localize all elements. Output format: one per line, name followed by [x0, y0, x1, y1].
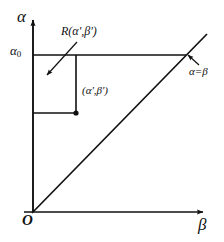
diagram-svg: [0, 0, 224, 242]
alpha-zero-tick-label: α0: [10, 44, 21, 57]
alpha-axis-label: α: [17, 8, 26, 25]
origin-label: O: [22, 213, 33, 228]
region-label-leader-arrow: [47, 42, 77, 75]
point-marker-alpha-beta-prime: [73, 110, 78, 115]
diagonal-label-leader-arrow: [188, 55, 199, 65]
diagonal-label: α=β: [189, 66, 208, 77]
beta-axis-label: β: [198, 216, 206, 233]
alpha-zero-base: α: [10, 43, 17, 58]
alpha-zero-subscript: 0: [17, 49, 22, 59]
point-label: (α',β'): [82, 85, 108, 96]
region-label: R(α',β'): [61, 25, 97, 37]
diagonal-alpha-equals-beta-line: [32, 34, 207, 213]
figure-canvas: α β α0 O R(α',β') (α',β') α=β: [0, 0, 224, 242]
